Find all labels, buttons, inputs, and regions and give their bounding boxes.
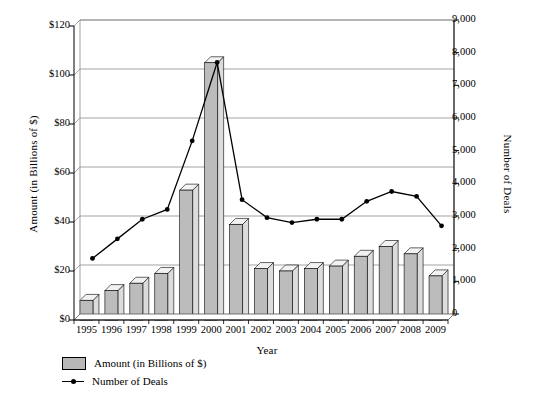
y-axis-right-tick-label: 1,000 (452, 274, 502, 285)
x-axis-tick-label: 2009 (416, 324, 456, 335)
y-axis-left-tick-label: $80 (24, 117, 70, 128)
y-axis-right-tick-label: 0 (452, 307, 502, 318)
y-axis-right-tick-label: 8,000 (452, 46, 502, 57)
y-axis-right-tick-label: 4,000 (452, 176, 502, 187)
y-axis-right-tick-label: 9,000 (452, 13, 502, 24)
y-axis-right-tick-label: 3,000 (452, 209, 502, 220)
legend-label-amount: Amount (in Billions of $) (94, 357, 206, 369)
line-series (90, 60, 444, 261)
y-axis-left-tick-label: $60 (24, 166, 70, 177)
combo-chart: Amount (in Billions of $) Number of Deal… (0, 0, 534, 395)
y-axis-left-tick-label: $20 (24, 264, 70, 275)
y-axis-right-title: Number of Deals (502, 79, 514, 269)
y-axis-right-tick-label: 7,000 (452, 78, 502, 89)
y-axis-left-tick-label: $120 (24, 19, 70, 30)
gridlines (74, 20, 454, 271)
chart-legend: Amount (in Billions of $) Number of Deal… (62, 355, 206, 391)
legend-item-deals: Number of Deals (62, 373, 206, 389)
y-axis-left-tick-label: $40 (24, 215, 70, 226)
legend-item-amount: Amount (in Billions of $) (62, 355, 206, 371)
line-marker-icon (62, 376, 84, 387)
chart-plot-area (0, 0, 534, 395)
y-axis-left-tick-label: $0 (24, 313, 70, 324)
y-axis-left-tick-label: $100 (24, 68, 70, 79)
y-axis-right-tick-label: 2,000 (452, 242, 502, 253)
y-axis-right-tick-label: 5,000 (452, 144, 502, 155)
legend-label-deals: Number of Deals (92, 375, 168, 387)
bar-series (80, 57, 448, 320)
bar-swatch-icon (62, 357, 86, 370)
y-axis-right-tick-label: 6,000 (452, 111, 502, 122)
